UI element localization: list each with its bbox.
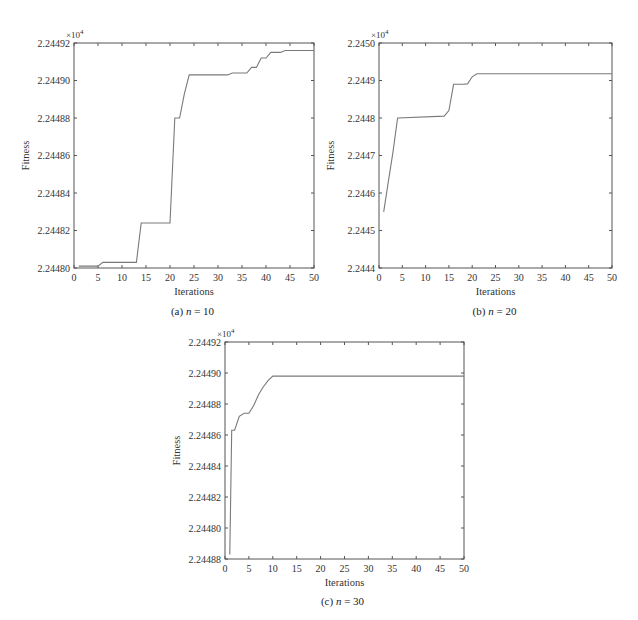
x-tick-label: 30: [363, 563, 373, 574]
y-tick-label: 2.24490: [189, 368, 222, 379]
fitness-line: [230, 376, 464, 554]
y-multiplier: ×104: [217, 327, 235, 339]
plot-frame: [225, 342, 464, 559]
y-tick-label: 2.24486: [189, 430, 222, 441]
chart-c: 051015202530354045502.244882.244802.2448…: [0, 0, 638, 620]
x-tick-label: 15: [292, 563, 302, 574]
x-tick-label: 40: [411, 563, 421, 574]
x-tick-label: 5: [246, 563, 251, 574]
caption-c-value: = 30: [344, 595, 364, 607]
y-tick-label: 2.24482: [189, 492, 222, 503]
x-tick-label: 35: [387, 563, 397, 574]
x-tick-label: 25: [340, 563, 350, 574]
x-axis-label: Iterations: [325, 577, 365, 588]
y-tick-label: 2.24488: [189, 399, 222, 410]
y-tick-label: 2.24484: [189, 461, 222, 472]
y-axis-label: Fitness: [171, 436, 182, 466]
y-tick-label: 2.24480: [189, 523, 222, 534]
caption-c: (c) n = 30: [250, 595, 435, 607]
y-tick-label: 2.24488: [189, 554, 222, 565]
x-tick-label: 20: [316, 563, 326, 574]
caption-c-var: n: [336, 595, 342, 607]
x-tick-label: 50: [459, 563, 469, 574]
x-tick-label: 45: [435, 563, 445, 574]
x-tick-label: 10: [268, 563, 278, 574]
caption-c-label: (c): [321, 595, 333, 607]
x-tick-label: 0: [223, 563, 228, 574]
chart-panel-c: 051015202530354045502.244882.244802.2448…: [0, 0, 638, 620]
